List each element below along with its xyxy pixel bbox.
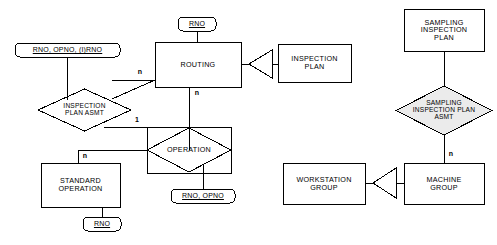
diagram-vector-layer: [0, 0, 497, 245]
entity-inspection-plan-shape: [278, 44, 351, 82]
attribute-operation-key-shape: [171, 189, 235, 203]
er-diagram-canvas: ROUTING INSPECTION PLAN SAMPLING INSPECT…: [0, 0, 497, 245]
attribute-standard-operation-key-shape: [83, 217, 121, 231]
entity-routing-shape: [155, 42, 241, 87]
entity-sampling-inspection-plan-shape: [404, 9, 484, 51]
attribute-routing-key-shape: [178, 17, 216, 31]
entity-machine-group-shape: [404, 163, 484, 204]
relationship-sampling-inspection-plan-asmt-shape: [396, 86, 492, 135]
edge-inspection-plan-asmt-to-routing: [112, 80, 155, 99]
entity-standard-operation-shape: [41, 163, 120, 207]
subtype-triangle-routing-inspection-plan: [249, 50, 272, 78]
entity-workstation-group-shape: [283, 163, 365, 204]
subtype-triangle-workstation-machine: [373, 168, 396, 198]
relationship-inspection-plan-asmt-shape: [38, 89, 131, 131]
attribute-inspection-plan-asmt-key-shape: [15, 43, 120, 57]
